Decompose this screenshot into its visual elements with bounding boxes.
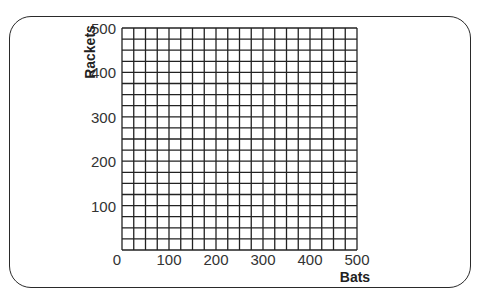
x-tick-100: 100 (156, 251, 181, 268)
grid-lines (122, 28, 357, 250)
x-tick-0: 0 (113, 251, 121, 268)
y-tick-100: 100 (91, 198, 116, 215)
chart-svg: 500 400 300 200 100 0 100 200 300 400 50… (0, 0, 481, 298)
x-tick-200: 200 (203, 251, 228, 268)
x-tick-500: 500 (344, 251, 369, 268)
y-tick-300: 300 (91, 109, 116, 126)
x-tick-400: 400 (297, 251, 322, 268)
x-tick-300: 300 (250, 251, 275, 268)
x-axis-title: Bats (340, 269, 371, 285)
y-axis-title: Rackets (82, 25, 98, 79)
y-tick-200: 200 (91, 153, 116, 170)
